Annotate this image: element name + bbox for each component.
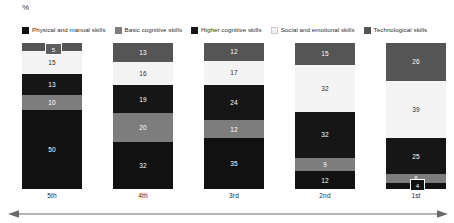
bar-segment[interactable]: 13: [22, 74, 82, 94]
bar-stack[interactable]: 515131050: [22, 43, 82, 189]
bar-segment-value: 13: [139, 49, 146, 56]
bar-segment-value: 15: [48, 59, 55, 66]
legend-item[interactable]: Higher cognitive skills: [191, 26, 262, 34]
legend-item[interactable]: Physical and manual skills: [22, 26, 106, 34]
x-axis-direction-arrow: [8, 206, 448, 218]
x-axis-label-2nd: 2nd: [295, 192, 355, 199]
bar-segment[interactable]: 50: [22, 110, 82, 188]
legend-swatch-icon: [364, 27, 371, 34]
bar-segment[interactable]: 9: [295, 158, 355, 171]
y-axis-unit-label: %: [22, 3, 29, 12]
callout-value: 4: [416, 182, 419, 189]
callout-value: 5: [52, 46, 55, 53]
legend-item[interactable]: Technological skills: [364, 26, 428, 34]
bar-segment-value: 12: [230, 126, 237, 133]
bar-segment-value: 13: [48, 81, 55, 88]
bar-segment-value: 39: [412, 106, 419, 113]
double-arrow-icon: [8, 208, 448, 220]
legend-item-label: Technological skills: [374, 26, 428, 34]
legend-item[interactable]: Social and emotional skills: [271, 26, 355, 34]
bar-segment[interactable]: 24: [204, 85, 264, 120]
bar-segment[interactable]: 19: [113, 85, 173, 113]
chart-legend: Physical and manual skillsBasic cognitiv…: [22, 24, 442, 36]
legend-item-label: Basic cognitive skills: [125, 26, 183, 34]
bar-segment-value: 32: [321, 131, 328, 138]
bar-segment[interactable]: 32: [113, 142, 173, 189]
bar-segment-value: 9: [323, 161, 327, 168]
bar-segment-value: 17: [230, 69, 237, 76]
bar-segment[interactable]: 13: [113, 43, 173, 62]
bar-segment[interactable]: 20: [113, 113, 173, 142]
x-axis-label-1st: 1st: [386, 192, 446, 199]
bar-segment[interactable]: 16: [113, 62, 173, 85]
bar-segment-value: 32: [321, 85, 328, 92]
bar-segment-value: 25: [412, 153, 419, 160]
stacked-bar-chart: % Physical and manual skillsBasic cognit…: [0, 0, 454, 223]
x-axis-category-labels: 5th4th3rd2nd1st: [22, 192, 446, 204]
bar-segment-value: 26: [412, 58, 419, 65]
bar-stack[interactable]: 1316192032: [113, 43, 173, 189]
bar-segment[interactable]: 26: [386, 43, 446, 81]
bar-segment-value: 12: [230, 48, 237, 55]
bar-segment-value: 19: [139, 96, 146, 103]
bar-segment[interactable]: 39: [386, 81, 446, 138]
bar-segment-value: 20: [139, 124, 146, 131]
bar-segment-value: 24: [230, 99, 237, 106]
bar-stack[interactable]: 153232912: [295, 43, 355, 189]
x-axis-label-4th: 4th: [113, 192, 173, 199]
legend-item-label: Physical and manual skills: [32, 26, 106, 34]
plot-area: 5151310501316192032121724123515323291226…: [22, 43, 446, 189]
legend-swatch-icon: [191, 27, 198, 34]
x-axis-label-5th: 5th: [22, 192, 82, 199]
bar-segment-value: 16: [139, 70, 146, 77]
bar-stack[interactable]: 1217241235: [204, 43, 264, 189]
callout-5th-technological: 5: [45, 43, 62, 55]
bar-segment[interactable]: 12: [295, 171, 355, 189]
bar-segment[interactable]: 12: [204, 120, 264, 138]
legend-item[interactable]: Basic cognitive skills: [115, 26, 183, 34]
legend-item-label: Social and emotional skills: [281, 26, 355, 34]
x-axis-label-3rd: 3rd: [204, 192, 264, 199]
legend-swatch-icon: [271, 27, 278, 34]
bar-segment-value: 10: [48, 99, 55, 106]
bar-segment[interactable]: 35: [204, 138, 264, 189]
callout-1st-physical: 4: [410, 179, 425, 191]
bar-segment-value: 50: [48, 146, 55, 153]
bar-segment[interactable]: 17: [204, 61, 264, 86]
bar-segment[interactable]: 10: [22, 95, 82, 111]
bar-segment-value: 12: [321, 177, 328, 184]
bar-segment[interactable]: 12: [204, 43, 264, 61]
bar-segment[interactable]: 32: [295, 65, 355, 112]
bar-segment[interactable]: 32: [295, 112, 355, 159]
bar-segment[interactable]: 25: [386, 138, 446, 175]
bar-segment-value: 35: [230, 160, 237, 167]
legend-item-label: Higher cognitive skills: [201, 26, 262, 34]
legend-swatch-icon: [22, 27, 29, 34]
bar-segment[interactable]: 15: [295, 43, 355, 65]
bar-segment-value: 15: [321, 50, 328, 57]
legend-swatch-icon: [115, 27, 122, 34]
bar-stack[interactable]: 2639256: [386, 43, 446, 189]
bar-segment-value: 32: [139, 162, 146, 169]
